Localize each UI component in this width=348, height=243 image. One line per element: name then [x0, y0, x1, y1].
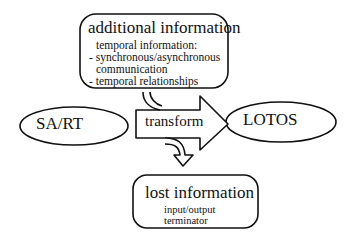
additional-info-line: - temporal relationships — [89, 75, 198, 87]
additional-info-title: additional information — [88, 19, 241, 36]
lost-info-title: lost information — [145, 184, 254, 201]
lost-info-line: input/output — [164, 204, 215, 215]
additional-info-line: temporal information: — [96, 39, 197, 51]
additional-info-line: - synchronous/asynchronous — [89, 51, 220, 63]
additional-info-line: communication — [96, 63, 168, 75]
lotos-label: LOTOS — [243, 111, 297, 128]
transform-label: transform — [145, 114, 203, 129]
sa-rt-label: SA/RT — [36, 115, 83, 132]
lost-info-line: terminator — [164, 215, 208, 226]
curved-input-arrow — [143, 92, 162, 110]
curved-output-arrow — [165, 138, 193, 166]
